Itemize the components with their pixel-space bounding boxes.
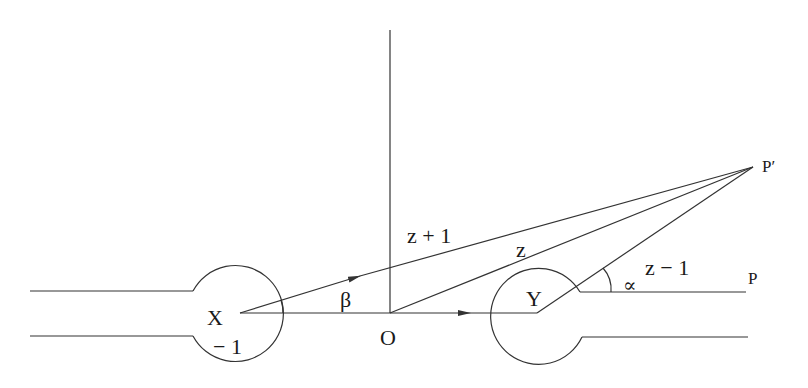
- label-p: P: [748, 269, 757, 288]
- beta-angle-arc: [281, 300, 283, 313]
- diagram-canvas: X − 1 O Y P P′ β ∝ z + 1 z z − 1: [0, 0, 808, 388]
- label-y: Y: [526, 286, 542, 311]
- label-beta: β: [340, 287, 351, 312]
- y-to-pprime-line: [537, 167, 753, 313]
- label-p-prime: P′: [762, 157, 775, 176]
- alpha-angle-arc: [603, 268, 611, 292]
- label-alpha: ∝: [623, 274, 637, 296]
- right-bulb-shape: [491, 268, 748, 364]
- label-minus-one: − 1: [213, 334, 242, 359]
- label-x: X: [207, 305, 223, 330]
- label-z-plus-1: z + 1: [407, 223, 451, 248]
- label-o: O: [380, 325, 396, 350]
- label-z-minus-1: z − 1: [645, 255, 689, 280]
- label-z: z: [516, 237, 526, 262]
- x-to-pprime-line: [360, 167, 753, 276]
